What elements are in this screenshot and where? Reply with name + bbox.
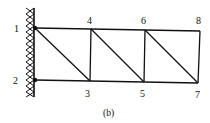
member-5-7 <box>144 82 198 83</box>
node-label-7: 7 <box>195 89 200 100</box>
member-2-3 <box>35 80 90 81</box>
member-1-3 <box>35 28 90 81</box>
figure-caption: (b) <box>103 108 114 119</box>
node-label-6: 6 <box>141 15 146 26</box>
truss-diagram: 1 2 4 6 8 3 5 7 (b) <box>0 0 210 123</box>
node-2-dot <box>33 78 37 82</box>
member-3-5 <box>90 81 144 82</box>
member-4-3 <box>90 29 91 81</box>
member-4-6 <box>91 29 145 30</box>
fixed-wall-support <box>26 8 34 97</box>
member-6-8 <box>145 30 200 31</box>
member-6-7 <box>145 30 198 83</box>
member-1-4 <box>35 28 91 29</box>
member-8-7 <box>198 31 200 83</box>
member-4-5 <box>91 29 144 82</box>
truss-members <box>35 28 200 83</box>
node-label-8: 8 <box>196 15 201 26</box>
node-label-1: 1 <box>14 23 19 34</box>
node-label-2: 2 <box>13 75 18 86</box>
node-label-5: 5 <box>140 88 145 99</box>
node-label-3: 3 <box>85 88 90 99</box>
node-label-4: 4 <box>87 15 92 26</box>
node-1-dot <box>33 26 37 30</box>
member-6-5 <box>144 30 145 82</box>
